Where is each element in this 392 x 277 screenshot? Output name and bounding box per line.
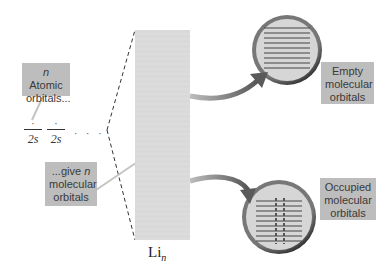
arrow-to-occupied bbox=[190, 177, 256, 204]
callout-occupied-molecular-orbitals: Occupied molecular orbitals bbox=[320, 178, 376, 220]
band-label: Lin bbox=[148, 244, 166, 263]
atomic-orbital-2s-2: · 2s bbox=[47, 120, 65, 147]
callout-atomic-orbitals: n Atomic orbitals... bbox=[22, 63, 70, 96]
atomic-orbital-2s-1: · 2s bbox=[24, 120, 42, 147]
energy-band bbox=[135, 30, 190, 240]
ellipsis: · · · bbox=[74, 128, 105, 139]
arrow-to-empty bbox=[190, 72, 268, 98]
dashed-correlation-lines bbox=[107, 30, 135, 240]
callout-empty-molecular-orbitals: Empty molecular orbitals bbox=[321, 62, 374, 104]
callout-give-n-molecular-orbitals: ...give n molecular orbitals bbox=[45, 162, 97, 206]
